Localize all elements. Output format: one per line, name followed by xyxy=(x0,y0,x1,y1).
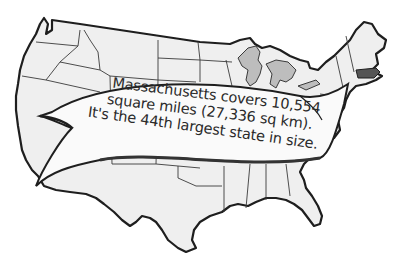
map-illustration: Massachusetts covers 10,554 square miles… xyxy=(0,0,404,259)
banner-text: Massachusetts covers 10,554 square miles… xyxy=(58,78,352,173)
